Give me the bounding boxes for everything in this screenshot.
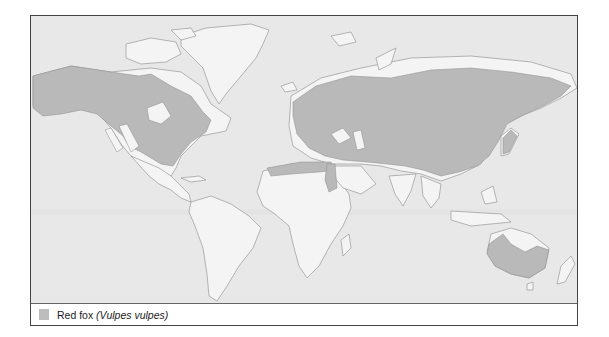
- world-map: [31, 16, 577, 304]
- legend-scientific-name: (Vulpes vulpes): [96, 309, 168, 321]
- world-map-svg: [31, 16, 577, 303]
- legend-label-red-fox: Red fox (Vulpes vulpes): [57, 309, 168, 321]
- legend-swatch-red-fox: [39, 309, 49, 320]
- legend-common-name: Red fox: [57, 309, 93, 321]
- map-figure: Red fox (Vulpes vulpes): [30, 15, 578, 326]
- map-legend: Red fox (Vulpes vulpes): [31, 304, 577, 325]
